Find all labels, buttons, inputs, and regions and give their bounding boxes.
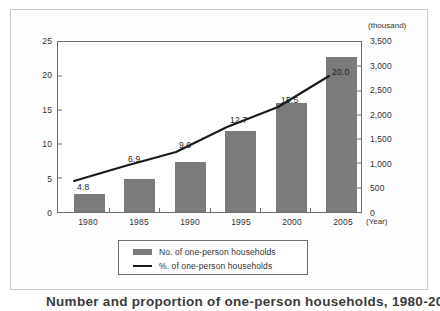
line-series-percent [58,42,363,214]
point-label-1995: 12.7 [230,115,247,125]
left-tick-15: 15 [42,105,52,115]
right-tick-500: 500 [370,183,384,193]
point-label-2000: 15.5 [281,95,298,105]
xtick-2000: 2000 [282,217,302,227]
chart-legend: No. of one-person households %. of one-p… [118,240,308,275]
legend-label-bar: No. of one-person households [159,247,276,257]
legend-item-bar: No. of one-person households [133,245,307,258]
chart-figure: (thousand) 0 5 10 15 20 25 0 500 1,000 1… [0,0,440,311]
plot-inner: 4.8 6.9 9.0 12.7 15.5 20.0 [58,42,361,212]
point-label-2005: 20.0 [332,67,349,77]
right-tick-1500: 1,500 [370,134,392,144]
right-axis-tick-labels: 0 500 1,000 1,500 2,000 2,500 3,000 3,50… [370,41,420,213]
left-tick-0: 0 [47,208,52,218]
point-label-1980: 4.8 [77,182,89,192]
right-axis-unit-label: (thousand) [368,21,406,30]
legend-label-line: %. of one-person households [159,261,272,271]
right-tick-2500: 2,500 [370,85,392,95]
figure-caption: Number and proportion of one-person hous… [46,294,440,311]
xtick-1990: 1990 [180,217,200,227]
right-tick-1000: 1,000 [370,159,392,169]
bar-swatch-icon [133,249,152,255]
left-axis-tick-labels: 0 5 10 15 20 25 [24,41,52,213]
left-tick-20: 20 [42,70,52,80]
right-tick-3000: 3,000 [370,61,392,71]
left-tick-5: 5 [47,174,52,184]
point-label-1990: 9.0 [179,140,191,150]
left-tick-25: 25 [42,36,52,46]
xtick-2005: 2005 [333,217,353,227]
plot-area: 4.8 6.9 9.0 12.7 15.5 20.0 [57,41,362,213]
right-tick-3500: 3,500 [370,36,392,46]
x-axis-title: (Year) [366,217,388,226]
line-swatch-icon [133,265,152,267]
point-label-1985: 6.9 [128,154,140,164]
xtick-1995: 1995 [231,217,251,227]
xtick-1985: 1985 [129,217,149,227]
legend-item-line: %. of one-person households [133,259,307,272]
xtick-1980: 1980 [78,217,98,227]
right-tick-2000: 2,000 [370,110,392,120]
left-tick-10: 10 [42,139,52,149]
